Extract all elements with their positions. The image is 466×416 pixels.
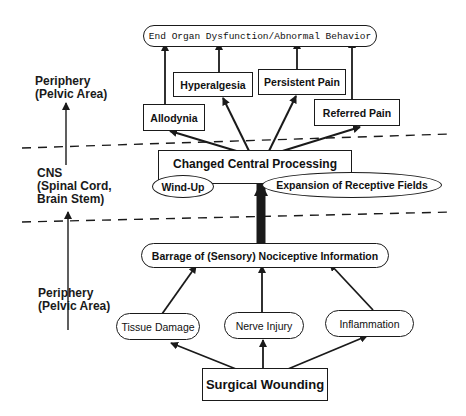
node-hyperalgesia: Hyperalgesia [173, 72, 253, 97]
node-expansion-receptive-fields: Expansion of Receptive Fields [262, 172, 442, 198]
level-label-bottom: Periphery (Pelvic Area) [38, 287, 110, 313]
node-nerve-injury: Nerve Injury [224, 312, 304, 339]
level-label-bottom-line2: (Pelvic Area) [38, 300, 110, 313]
node-surgical-wounding: Surgical Wounding [202, 368, 328, 401]
node-wind-up: Wind-Up [152, 175, 214, 198]
node-end-organ-dysfunction: End Organ Dysfunction/Abnormal Behavior [143, 25, 377, 47]
level-label-top: Periphery (Pelvic Area) [35, 75, 107, 101]
node-tissue-damage: Tissue Damage [116, 313, 200, 340]
node-persistent-pain: Persistent Pain [258, 69, 346, 95]
node-inflammation: Inflammation [325, 310, 414, 337]
level-divider-upper [22, 134, 450, 148]
level-label-middle: CNS (Spinal Cord, Brain Stem) [37, 167, 112, 206]
level-label-top-line2: (Pelvic Area) [35, 88, 107, 101]
node-allodynia: Allodynia [143, 104, 205, 131]
level-label-middle-line3: Brain Stem) [37, 193, 112, 206]
level-divider-lower [22, 212, 452, 222]
node-barrage-nociceptive-information: Barrage of (Sensory) Nociceptive Informa… [141, 243, 389, 268]
node-changed-central-processing-label: Changed Central Processing [173, 157, 337, 171]
connector-layer [0, 0, 466, 416]
node-referred-pain: Referred Pain [314, 99, 400, 126]
